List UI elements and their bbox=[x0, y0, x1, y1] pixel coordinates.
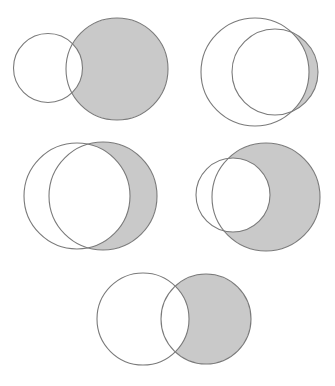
diagram-1 bbox=[14, 18, 169, 120]
diagram-4 bbox=[196, 143, 320, 251]
diagram-3 bbox=[24, 142, 157, 250]
diagram-group bbox=[14, 18, 321, 365]
venn-diagram-canvas bbox=[0, 0, 335, 386]
diagram-2 bbox=[201, 18, 318, 126]
venn-diagrams-svg bbox=[0, 0, 335, 386]
diagram-5 bbox=[97, 273, 251, 365]
